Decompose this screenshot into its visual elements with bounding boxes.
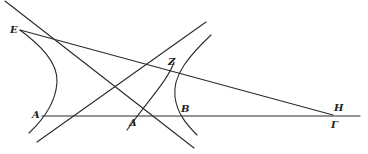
- diagram-svg: [0, 0, 368, 154]
- hyperbola-right-branch: [175, 35, 211, 135]
- label-h: H: [334, 103, 343, 113]
- label-z: Z: [168, 57, 175, 67]
- diagonal-line-descending: [5, 1, 194, 148]
- label-gamma: Γ: [331, 120, 338, 130]
- label-e: E: [10, 25, 18, 35]
- label-b: B: [181, 104, 189, 114]
- label-delta: Δ: [129, 118, 137, 128]
- label-a: A: [32, 110, 40, 120]
- diagram-figure: E Z A Δ B H Γ: [0, 0, 368, 154]
- diagonal-line-ascending: [37, 22, 206, 142]
